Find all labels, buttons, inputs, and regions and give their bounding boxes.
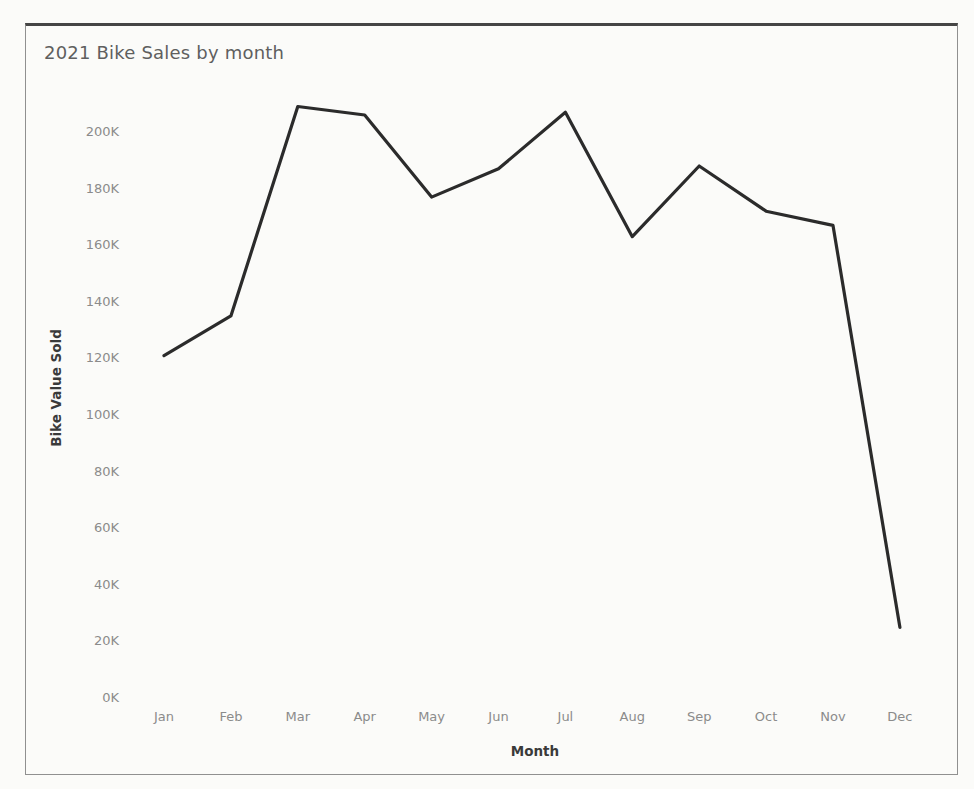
y-tick-label: 20K [39,633,119,649]
x-axis-title: Month [511,743,559,759]
y-tick-label: 140K [39,294,119,310]
y-tick-label: 100K [39,407,119,423]
x-tick-label: Jul [533,709,597,725]
y-tick-label: 60K [39,520,119,536]
y-tick-label: 200K [39,124,119,140]
x-tick-label: Nov [801,709,865,725]
y-tick-label: 80K [39,464,119,480]
x-tick-label: Sep [667,709,731,725]
x-tick-label: May [400,709,464,725]
y-axis-title: Bike Value Sold [48,329,64,447]
x-tick-label: Feb [199,709,263,725]
y-tick-label: 160K [39,237,119,253]
x-tick-label: Dec [868,709,932,725]
x-tick-label: Oct [734,709,798,725]
chart-title: 2021 Bike Sales by month [44,42,284,63]
x-tick-label: Aug [600,709,664,725]
x-tick-label: Mar [266,709,330,725]
x-tick-label: Jun [467,709,531,725]
y-tick-label: 120K [39,350,119,366]
x-tick-label: Jan [132,709,196,725]
y-tick-label: 0K [39,690,119,706]
chart-border-box [25,23,958,775]
chart-figure: 2021 Bike Sales by month Bike Value Sold… [0,0,974,789]
y-tick-label: 180K [39,181,119,197]
x-tick-label: Apr [333,709,397,725]
y-tick-label: 40K [39,577,119,593]
